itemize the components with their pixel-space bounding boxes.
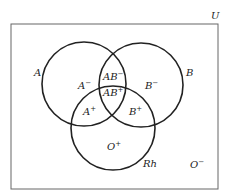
region-a-negative: A−	[77, 79, 91, 91]
venn-diagram: U A B Rh A− B− AB− AB+ A+ B+ O+ O−	[0, 0, 231, 196]
region-b-positive: B+	[128, 105, 142, 117]
region-a-positive: A+	[82, 105, 96, 117]
region-ab-positive: AB+	[102, 86, 124, 98]
set-a-label: A	[33, 67, 41, 78]
region-b-negative: B−	[144, 79, 158, 91]
universe-frame	[11, 24, 218, 189]
region-ab-negative: AB−	[102, 70, 124, 82]
universe-label: U	[211, 10, 220, 21]
region-o-negative: O−	[190, 158, 204, 170]
set-rh-label: Rh	[142, 158, 157, 169]
region-o-positive: O+	[107, 140, 121, 152]
set-b-label: B	[185, 67, 193, 78]
circle-b	[99, 43, 183, 127]
